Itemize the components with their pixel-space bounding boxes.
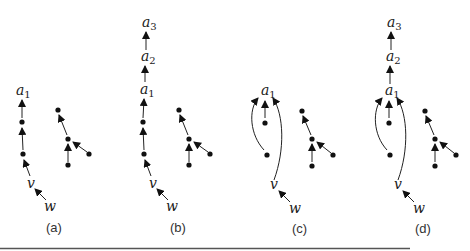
caption-b: (b) — [170, 220, 186, 235]
node — [176, 107, 181, 112]
label-a3: a3 — [387, 14, 402, 32]
node — [140, 119, 145, 124]
node — [207, 151, 212, 156]
label-a1: a1 — [261, 82, 276, 100]
node — [309, 136, 314, 141]
label-v: v — [149, 175, 157, 191]
node — [65, 136, 70, 141]
node — [141, 151, 146, 156]
node — [386, 120, 391, 125]
node — [432, 136, 437, 141]
caption-c: (c) — [292, 221, 307, 236]
node — [422, 108, 427, 113]
node — [186, 136, 191, 141]
label-a1: a1 — [140, 81, 155, 99]
node — [264, 152, 269, 157]
node — [65, 162, 70, 167]
label-v: v — [394, 176, 402, 192]
node — [55, 107, 60, 112]
path-compression-diagram: a1 v w (a) a3 a2 a1 v w — [0, 0, 470, 251]
label-a2: a2 — [386, 48, 401, 66]
label-a1: a1 — [16, 82, 31, 100]
panel-c: a1 v w (c) — [252, 82, 336, 236]
caption-d: (d) — [415, 221, 431, 236]
node — [19, 119, 24, 124]
panel-d: a3 a2 a1 v w (d) — [375, 14, 458, 236]
panel-b: a3 a2 a1 v w (b) — [140, 14, 213, 235]
label-a1: a1 — [385, 82, 400, 100]
caption-a: (a) — [46, 220, 62, 235]
node — [262, 120, 267, 125]
node — [387, 152, 392, 157]
node — [309, 163, 314, 168]
node — [86, 151, 91, 156]
label-v: v — [270, 176, 278, 192]
label-v: v — [27, 175, 35, 191]
panel-a: a1 v w (a) — [16, 82, 92, 235]
label-w: w — [289, 200, 301, 216]
label-a2: a2 — [141, 48, 156, 66]
node — [186, 162, 191, 167]
label-a3: a3 — [142, 14, 157, 32]
label-w: w — [166, 198, 178, 214]
node — [453, 152, 458, 157]
node — [432, 163, 437, 168]
label-w: w — [44, 198, 56, 214]
node — [299, 108, 304, 113]
node — [20, 151, 25, 156]
node — [330, 152, 335, 157]
label-w: w — [413, 200, 425, 216]
